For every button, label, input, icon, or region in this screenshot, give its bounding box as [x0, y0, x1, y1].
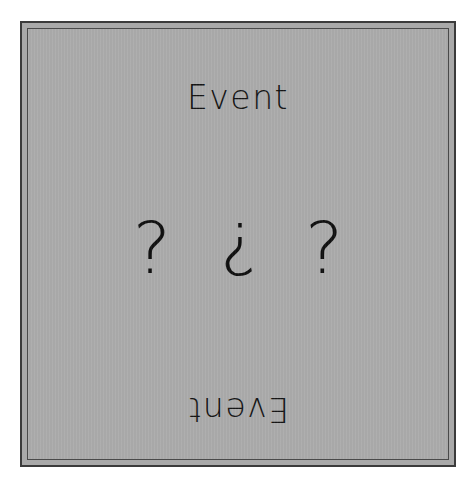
question-mark-center-inverted-icon: ?: [219, 212, 257, 284]
question-mark-row: ? ? ?: [28, 212, 448, 284]
screenshot-canvas: Event ? ? ? Event: [0, 0, 472, 490]
card-title-bottom: Event: [28, 393, 448, 426]
event-card-inner-frame: Event ? ? ? Event: [27, 28, 449, 460]
question-mark-right-icon: ?: [305, 212, 343, 284]
event-card: Event ? ? ? Event: [20, 21, 456, 467]
question-mark-left-icon: ?: [133, 212, 171, 284]
card-title-top: Event: [28, 81, 448, 114]
